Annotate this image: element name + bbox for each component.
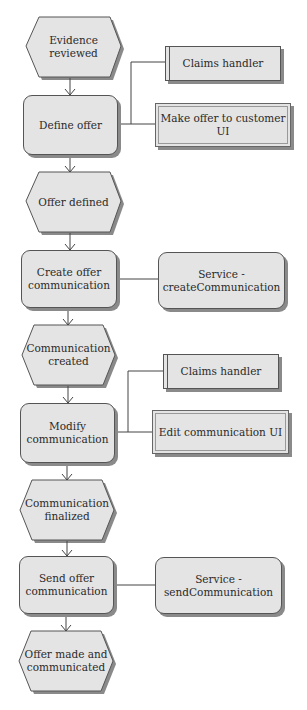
- system-label: Edit communication UI: [155, 426, 286, 439]
- function-define-offer: Define offer: [23, 95, 118, 155]
- system-edit-communication-ui: Edit communication UI: [152, 410, 289, 454]
- function-label: Modify: [49, 420, 86, 432]
- function-send-offer-communication: Send offercommunication: [19, 556, 114, 614]
- service-label: sendCommunication: [164, 586, 273, 598]
- service-send-communication: Service -sendCommunication: [155, 557, 282, 614]
- service-label: createCommunication: [163, 281, 281, 293]
- event-label: finalized: [44, 510, 89, 522]
- function-label: communication: [28, 279, 110, 291]
- epc-diagram: Evidencereviewed Offer defined Communica…: [0, 0, 307, 710]
- event-label: communicated: [27, 661, 105, 673]
- role-claims-handler-1: Claims handler: [165, 46, 281, 81]
- event-offer-made-and-communicated: Offer made andcommunicated: [19, 631, 113, 691]
- role-label: Claims handler: [179, 57, 268, 70]
- system-make-offer-to-customer-ui: Make offer to customer UI: [155, 103, 291, 147]
- event-label: Evidence: [49, 34, 98, 46]
- event-evidence-reviewed: Evidencereviewed: [26, 17, 121, 77]
- event-label: Communication: [27, 342, 111, 354]
- event-label: Offer defined: [34, 196, 112, 209]
- event-communication-created: Communicationcreated: [22, 325, 115, 385]
- event-label: Offer made and: [25, 648, 108, 660]
- function-label: communication: [27, 433, 109, 445]
- service-label: Service -: [198, 268, 245, 280]
- function-create-offer-communication: Create offercommunication: [21, 250, 117, 308]
- role-label: Claims handler: [177, 365, 266, 378]
- event-label: created: [48, 355, 89, 367]
- system-label: Make offer to customer UI: [156, 112, 290, 138]
- function-label: Send offer: [39, 572, 94, 584]
- role-claims-handler-2: Claims handler: [163, 354, 279, 389]
- function-label: Create offer: [37, 266, 101, 278]
- function-modify-communication: Modifycommunication: [20, 403, 115, 463]
- event-offer-defined: Offer defined: [26, 172, 121, 232]
- event-label: reviewed: [49, 47, 98, 59]
- service-create-communication: Service -createCommunication: [158, 252, 285, 309]
- function-label: communication: [26, 585, 108, 597]
- function-label: Define offer: [35, 119, 106, 132]
- event-label: Communication: [25, 497, 109, 509]
- service-label: Service -: [195, 573, 242, 585]
- event-communication-finalized: Communicationfinalized: [20, 480, 114, 540]
